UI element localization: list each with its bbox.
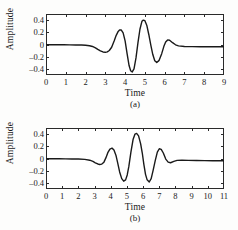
y-tick-label: 0.2 — [33, 27, 44, 37]
x-tick-label: 11 — [220, 191, 228, 201]
x-tick-label: 6 — [141, 191, 145, 201]
x-tick-label: 2 — [76, 191, 80, 201]
y-tick-label: –0.2 — [29, 52, 44, 62]
y-tick-labels-b: 0.40.20–0.2–0.4 — [16, 128, 44, 189]
y-axis-label-a: Amplitude — [5, 0, 15, 60]
chart-panel-a: Amplitude 0.40.20–0.2–0.4 0123456789 Tim… — [0, 0, 238, 115]
y-tick-label: 0 — [40, 154, 44, 164]
y-tick-label: 0.4 — [33, 129, 44, 139]
y-tick-label: –0.2 — [29, 166, 44, 176]
x-tick-label: 5 — [143, 77, 147, 87]
panel-caption-a: (a) — [46, 99, 224, 109]
y-tick-label: –0.4 — [29, 64, 44, 74]
x-tick-label: 8 — [202, 77, 206, 87]
x-tick-label: 6 — [163, 77, 167, 87]
y-axis-label-b: Amplitude — [5, 112, 15, 174]
x-tick-label: 5 — [125, 191, 129, 201]
y-tick-label: 0.4 — [33, 15, 44, 25]
x-tick-label: 3 — [103, 77, 107, 87]
x-tick-label: 9 — [222, 77, 226, 87]
x-tick-label: 4 — [123, 77, 127, 87]
waveform-curve-b — [46, 128, 224, 189]
x-tick-label: 0 — [44, 191, 48, 201]
x-tick-label: 4 — [109, 191, 113, 201]
y-tick-label: 0.2 — [33, 141, 44, 151]
x-tick-label: 3 — [92, 191, 96, 201]
y-tick-label: 0 — [40, 40, 44, 50]
x-tick-label: 9 — [190, 191, 194, 201]
x-tick-label: 2 — [83, 77, 87, 87]
x-tick-label: 1 — [64, 77, 68, 87]
x-tick-label: 7 — [157, 191, 161, 201]
x-tick-label: 10 — [204, 191, 213, 201]
y-tick-labels-a: 0.40.20–0.2–0.4 — [16, 14, 44, 75]
x-axis-label-a: Time — [46, 88, 224, 98]
x-tick-label: 7 — [182, 77, 186, 87]
x-tick-label: 8 — [173, 191, 177, 201]
x-axis-label-b: Time — [46, 202, 224, 212]
plot-area-b — [46, 128, 224, 189]
x-tick-label: 0 — [44, 77, 48, 87]
chart-panel-b: Amplitude 0.40.20–0.2–0.4 01234567891011… — [0, 112, 238, 230]
plot-area-a — [46, 14, 224, 75]
panel-caption-b: (b) — [46, 213, 224, 223]
y-tick-label: –0.4 — [29, 178, 44, 188]
waveform-curve-a — [46, 14, 224, 75]
x-tick-label: 1 — [60, 191, 64, 201]
figure-container: Amplitude 0.40.20–0.2–0.4 0123456789 Tim… — [0, 0, 238, 230]
